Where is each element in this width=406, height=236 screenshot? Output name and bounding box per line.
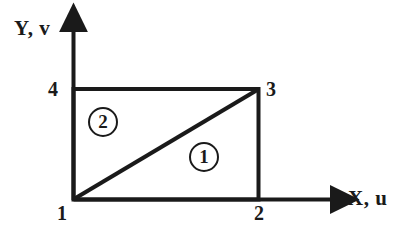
element-label-2: 2	[88, 107, 118, 137]
node-label-4: 4	[48, 79, 58, 99]
node-label-1: 1	[57, 203, 67, 223]
node-label-3: 3	[266, 79, 276, 99]
y-axis-label: Y, v	[14, 18, 50, 39]
diagram-canvas	[0, 0, 406, 236]
element-label-1: 1	[189, 142, 219, 172]
x-axis-label: X, u	[348, 188, 387, 209]
diagonal-edge-1-3	[74, 90, 258, 200]
finite-element-diagram: Y, v X, u 1 2 3 4 2 1	[0, 0, 406, 236]
node-label-2: 2	[254, 203, 264, 223]
